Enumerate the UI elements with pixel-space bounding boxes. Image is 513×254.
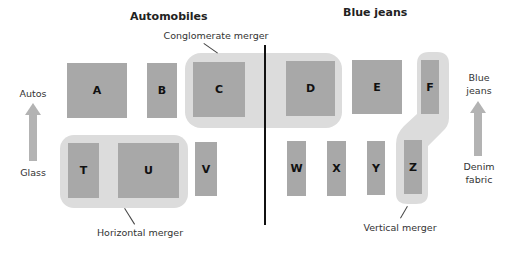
firm-u: U [118,143,179,198]
firm-z: Z [404,140,422,194]
blue-jeans-label-line1: Blue [462,71,496,84]
right-arrow-shaft [474,112,482,156]
firm-y: Y [367,141,385,195]
denim-fabric-label-line2: fabric [460,173,498,186]
firm-a: A [67,63,127,118]
firm-f: F [421,60,439,114]
glass-label: Glass [13,166,53,179]
automobiles-heading: Automobiles [130,10,208,23]
firm-w: W [287,141,306,196]
left-arrow-shaft [29,114,37,161]
horizontal-leader-line [124,208,135,225]
firm-e: E [352,60,402,114]
autos-label: Autos [13,87,53,100]
firm-b: B [147,63,177,118]
firm-v: V [195,142,217,196]
firm-x: X [327,141,346,196]
vertical-merger-label: Vertical merger [350,221,450,234]
conglomerate-merger-label: Conglomerate merger [146,29,286,42]
conglomerate-leader-line [203,43,217,54]
blue-jeans-label: Blue jeans [462,71,496,97]
denim-fabric-label: Denim fabric [460,160,498,186]
industry-divider [264,45,266,225]
denim-fabric-label-line1: Denim [460,160,498,173]
firm-c: C [193,62,245,117]
firm-d: D [286,61,335,116]
blue-jeans-label-line2: jeans [462,84,496,97]
blue-jeans-heading: Blue jeans [343,6,407,19]
horizontal-merger-label: Horizontal merger [85,226,195,239]
firm-t: T [68,143,99,198]
